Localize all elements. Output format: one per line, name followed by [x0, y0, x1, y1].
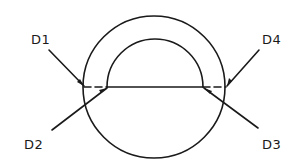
- cross-section-drawing: [0, 0, 306, 165]
- label-d3: D3: [262, 138, 281, 151]
- inner-arc: [107, 39, 203, 87]
- label-d1: D1: [31, 33, 50, 46]
- label-d4: D4: [262, 33, 281, 46]
- leader-d4: [227, 50, 259, 86]
- leader-d3: [204, 88, 258, 128]
- diagram-canvas: D1 D2 D3 D4: [0, 0, 306, 165]
- label-d2: D2: [24, 138, 43, 151]
- leader-d2: [52, 88, 107, 130]
